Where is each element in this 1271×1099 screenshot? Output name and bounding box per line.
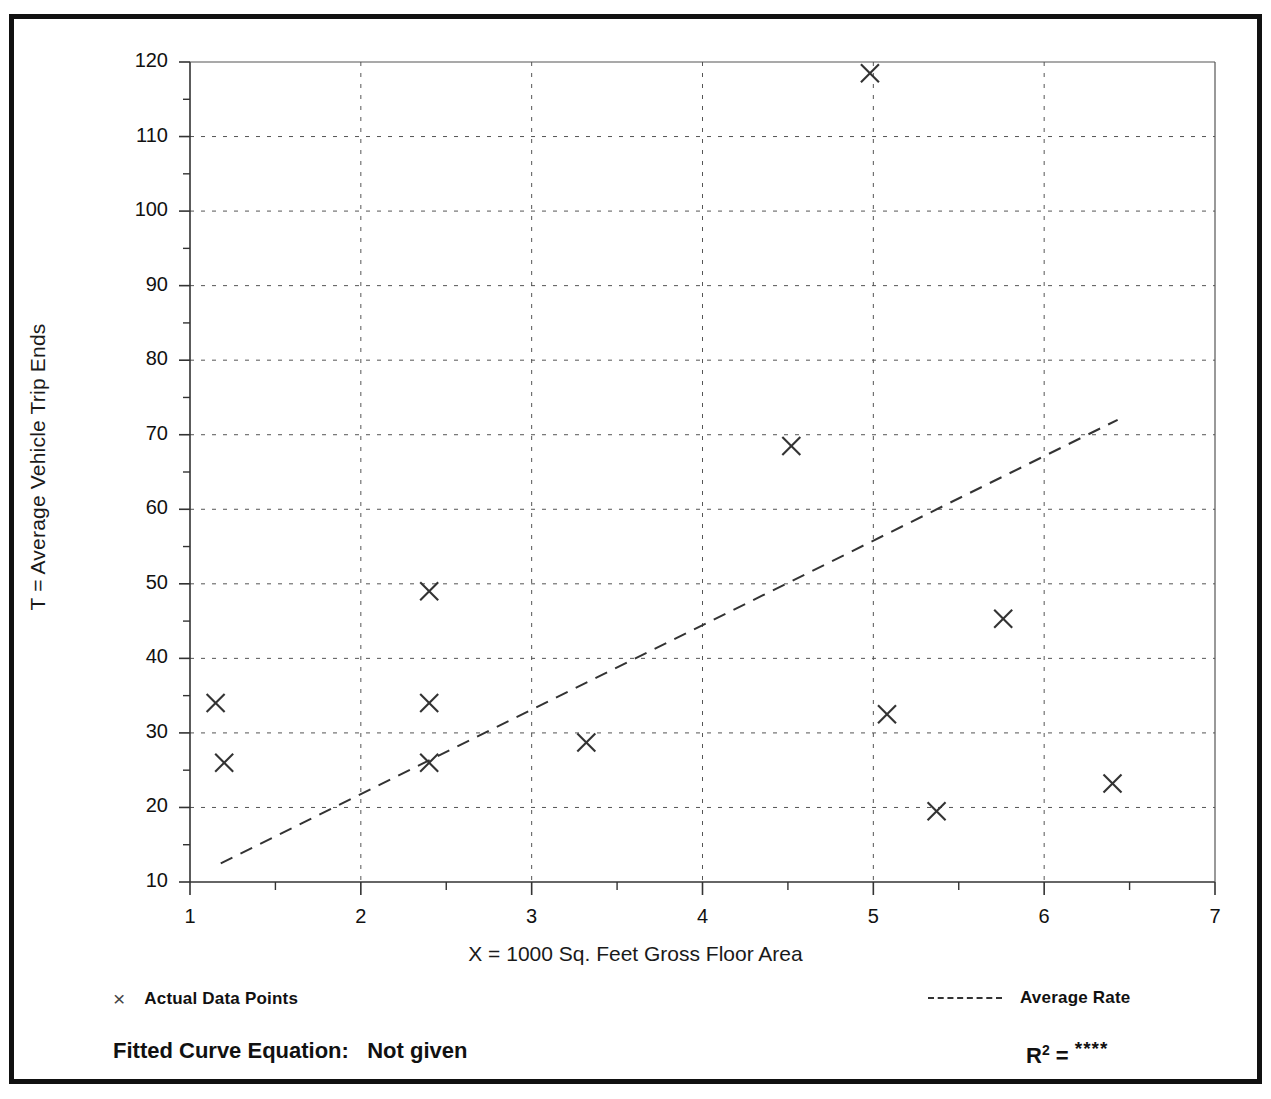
y-tick-label: 20 — [112, 794, 168, 817]
chart-page: 102030405060708090100110120 1234567 T = … — [0, 0, 1271, 1099]
scatter-plot-svg — [0, 0, 1271, 1099]
y-tick-label: 70 — [112, 422, 168, 445]
data-point-marker — [928, 802, 946, 820]
x-tick-label: 2 — [331, 905, 391, 928]
legend-label-actual-data-points: Actual Data Points — [144, 989, 298, 1009]
y-tick-label: 30 — [112, 720, 168, 743]
fitted-curve-equation-value: Not given — [367, 1038, 467, 1063]
r-squared-label: R — [1026, 1043, 1042, 1068]
y-tick-label: 100 — [112, 198, 168, 221]
legend-label-average-rate: Average Rate — [1020, 988, 1130, 1008]
x-tick-label: 7 — [1185, 905, 1245, 928]
legend-item-average-rate: Average Rate — [928, 988, 1130, 1008]
x-tick-label: 1 — [160, 905, 220, 928]
data-point-marker — [207, 694, 225, 712]
y-tick-label: 110 — [112, 124, 168, 147]
data-point-marker — [782, 437, 800, 455]
r-squared-value: **** — [1075, 1038, 1109, 1059]
r-squared-equals: = — [1056, 1043, 1069, 1068]
data-point-marker — [878, 705, 896, 723]
data-point-marker — [420, 694, 438, 712]
data-point-marker — [577, 734, 595, 752]
x-axis-title: X = 1000 Sq. Feet Gross Floor Area — [0, 942, 1271, 966]
data-point-marker — [994, 610, 1012, 628]
fitted-curve-equation-label: Fitted Curve Equation: — [113, 1038, 349, 1063]
y-axis-title: T = Average Vehicle Trip Ends — [26, 297, 50, 637]
data-points-layer — [207, 64, 1122, 820]
data-point-marker — [420, 582, 438, 600]
x-marker-icon: × — [113, 988, 125, 1009]
data-point-marker — [861, 64, 879, 82]
fitted-curve-equation: Fitted Curve Equation: Not given — [113, 1038, 467, 1064]
x-tick-label: 4 — [673, 905, 733, 928]
equation-row: Fitted Curve Equation: Not given R2 = **… — [0, 1038, 1271, 1078]
ticks-layer — [179, 62, 1215, 895]
r-squared-exponent: 2 — [1042, 1042, 1050, 1058]
y-tick-label: 90 — [112, 273, 168, 296]
y-tick-label: 120 — [112, 49, 168, 72]
chart-plot-area: 102030405060708090100110120 1234567 T = … — [0, 0, 1271, 1099]
y-tick-label: 40 — [112, 645, 168, 668]
data-point-marker — [1104, 775, 1122, 793]
y-tick-label: 80 — [112, 347, 168, 370]
dashed-line-icon — [928, 997, 1002, 999]
data-point-marker — [215, 754, 233, 772]
x-tick-label: 5 — [843, 905, 903, 928]
r-squared: R2 = **** — [1026, 1038, 1108, 1069]
average-rate-trendline — [221, 420, 1118, 864]
x-tick-label: 6 — [1014, 905, 1074, 928]
gridlines-layer — [190, 62, 1215, 882]
y-tick-label: 10 — [112, 869, 168, 892]
y-tick-label: 50 — [112, 571, 168, 594]
legend-item-actual-data-points: × Actual Data Points — [113, 988, 298, 1009]
legend: × Actual Data Points Average Rate — [0, 988, 1271, 1022]
y-tick-label: 60 — [112, 496, 168, 519]
x-tick-label: 3 — [502, 905, 562, 928]
